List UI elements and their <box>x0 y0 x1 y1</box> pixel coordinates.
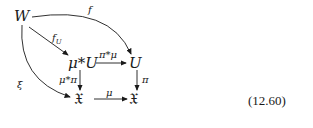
label-xi: ξ <box>17 80 23 90</box>
label-mu: μ <box>106 88 113 98</box>
label-mupi: μ*π <box>59 75 77 85</box>
label-fU: fU <box>52 33 62 46</box>
arrow-fU <box>29 27 68 55</box>
node-Z: 𝔛 <box>74 92 83 107</box>
equation-number: (12.60) <box>248 93 286 109</box>
label-pi: π <box>142 75 149 85</box>
node-W: W <box>14 9 29 24</box>
node-U: U <box>129 56 142 71</box>
label-f: f <box>88 5 92 15</box>
node-X: 𝔛 <box>129 92 138 107</box>
label-fU-sub: U <box>56 38 62 46</box>
arrow-xi <box>22 25 70 97</box>
label-pimu: π*μ <box>99 50 117 60</box>
node-muU: μ*U <box>68 56 98 71</box>
